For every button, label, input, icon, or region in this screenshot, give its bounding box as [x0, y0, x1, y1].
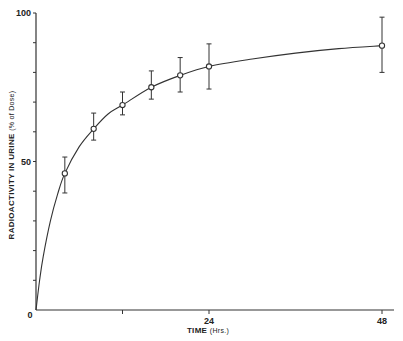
data-points	[62, 17, 384, 193]
data-point	[91, 113, 96, 140]
open-circle-marker	[149, 85, 154, 90]
x-tick-label: 48	[377, 316, 387, 326]
open-circle-marker	[120, 102, 125, 107]
open-circle-marker	[206, 64, 211, 69]
y-tick-label: 100	[16, 8, 31, 18]
x-tick-label: 24	[204, 316, 214, 326]
data-point	[178, 58, 183, 92]
origin-label: 0	[27, 310, 32, 320]
axes	[33, 13, 394, 314]
y-tick-label: 50	[21, 157, 31, 167]
data-point	[206, 44, 211, 89]
data-point	[379, 17, 384, 72]
open-circle-marker	[178, 73, 183, 78]
data-point	[120, 92, 125, 115]
chart: 5010002448TIME (Hrs.)RADIOACTIVITY IN UR…	[0, 0, 403, 341]
open-circle-marker	[62, 171, 67, 176]
data-point	[62, 157, 67, 193]
open-circle-marker	[379, 43, 384, 48]
data-point	[149, 71, 154, 99]
y-axis-title: RADIOACTIVITY IN URINE (% of Dose)	[7, 91, 16, 240]
open-circle-marker	[91, 126, 96, 131]
x-axis-title: TIME (Hrs.)	[187, 326, 229, 335]
